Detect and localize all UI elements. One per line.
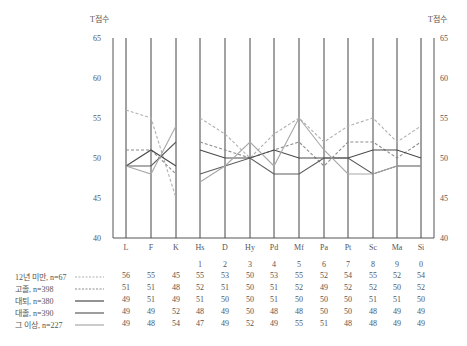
table-cell: 52	[242, 319, 258, 328]
table-cell: 49	[118, 319, 134, 328]
table-cell: 55	[291, 319, 307, 328]
table-cell: 50	[242, 271, 258, 280]
table-cell: 49	[118, 307, 134, 316]
table-cell: 49	[143, 307, 159, 316]
series-line-1	[200, 142, 421, 166]
table-cell: 49	[413, 319, 429, 328]
table-cell: 50	[291, 295, 307, 304]
table-cell: 50	[217, 295, 233, 304]
table-cell: 50	[340, 295, 356, 304]
table-cell: 51	[365, 295, 381, 304]
table-cell: 52	[168, 307, 184, 316]
table-cell: 49	[217, 319, 233, 328]
table-cell: 49	[413, 307, 429, 316]
y-tick-left: 50	[93, 154, 101, 163]
x-tick-Pt: Pt	[345, 243, 352, 252]
x-tick-Sc: Sc	[369, 243, 377, 252]
x-tick-Mf: Mf	[294, 243, 304, 252]
table-cell: 50	[316, 307, 332, 316]
table-cell: 49	[118, 295, 134, 304]
table-cell: 48	[192, 307, 208, 316]
legend-label: 대졸, n=390	[15, 307, 54, 318]
scale-number: 7	[346, 260, 350, 269]
y-tick-left: 40	[93, 234, 101, 243]
table-cell: 49	[389, 319, 405, 328]
table-cell: 50	[389, 283, 405, 292]
table-cell: 51	[389, 295, 405, 304]
table-cell: 52	[192, 283, 208, 292]
table-cell: 55	[143, 271, 159, 280]
table-cell: 52	[316, 271, 332, 280]
scale-number: 8	[371, 260, 375, 269]
series-line-2	[200, 150, 421, 158]
scale-number: 6	[322, 260, 326, 269]
table-cell: 51	[143, 295, 159, 304]
y-tick-labels: 404045455050555560606565	[93, 34, 448, 243]
table-cell: 49	[217, 307, 233, 316]
table-cell: 56	[118, 271, 134, 280]
x-tick-Si: Si	[418, 243, 425, 252]
x-tick-Pd: Pd	[270, 243, 278, 252]
table-cell: 52	[340, 283, 356, 292]
x-tick-Hy: Hy	[245, 243, 255, 252]
x-tick-K: K	[173, 243, 179, 252]
table-cell: 48	[168, 283, 184, 292]
table-cell: 50	[413, 295, 429, 304]
table-cell: 50	[340, 307, 356, 316]
table-cell: 50	[242, 295, 258, 304]
x-tick-D: D	[222, 243, 228, 252]
table-cell: 55	[365, 271, 381, 280]
series-line-3	[200, 158, 421, 174]
table-cell: 49	[266, 319, 282, 328]
table-cell: 50	[242, 283, 258, 292]
table-cell: 51	[266, 295, 282, 304]
table-cell: 49	[316, 283, 332, 292]
table-cell: 52	[389, 271, 405, 280]
table-cell: 53	[217, 271, 233, 280]
table-cell: 47	[192, 319, 208, 328]
table-cell: 53	[266, 271, 282, 280]
x-tick-F: F	[149, 243, 154, 252]
table-cell: 55	[192, 271, 208, 280]
x-tick-labels: LFKHsDHyPdMfPaPtScMaSi	[124, 243, 426, 252]
table-cell: 49	[168, 295, 184, 304]
table-cell: 55	[291, 271, 307, 280]
table-cell: 52	[413, 283, 429, 292]
y-tick-left: 55	[93, 114, 101, 123]
scale-number: 0	[419, 260, 423, 269]
table-cell: 51	[217, 283, 233, 292]
y-tick-left: 65	[93, 34, 101, 43]
table-cell: 48	[365, 307, 381, 316]
table-cell: 54	[413, 271, 429, 280]
y-tick-left: 60	[93, 74, 101, 83]
y-axis-title-right: T점수	[428, 14, 447, 24]
scale-numbers: 1234567890	[198, 260, 423, 269]
table-cell: 49	[389, 307, 405, 316]
x-tick-Ma: Ma	[392, 243, 403, 252]
legend-label: 대퇴, n=380	[15, 295, 54, 306]
y-tick-right: 45	[440, 194, 448, 203]
y-tick-left: 45	[93, 194, 101, 203]
y-tick-right: 65	[440, 34, 448, 43]
table-cell: 52	[365, 283, 381, 292]
table-cell: 52	[291, 283, 307, 292]
table-cell: 48	[365, 319, 381, 328]
x-tick-L: L	[124, 243, 129, 252]
scale-number: 5	[297, 260, 301, 269]
legend-swatches	[75, 277, 104, 325]
y-tick-right: 50	[440, 154, 448, 163]
x-tick-Pa: Pa	[320, 243, 328, 252]
legend-label: 그 이상, n=227	[15, 319, 63, 330]
y-tick-right: 60	[440, 74, 448, 83]
table-cell: 48	[340, 319, 356, 328]
table-cell: 51	[316, 319, 332, 328]
table-cell: 50	[316, 295, 332, 304]
scale-number: 2	[223, 260, 227, 269]
table-cell: 51	[143, 283, 159, 292]
scale-number: 1	[198, 260, 202, 269]
table-cell: 51	[192, 295, 208, 304]
x-tick-Hs: Hs	[196, 243, 205, 252]
table-cell: 48	[266, 307, 282, 316]
y-axis-title-left: T점수	[90, 14, 109, 24]
table-cell: 51	[266, 283, 282, 292]
